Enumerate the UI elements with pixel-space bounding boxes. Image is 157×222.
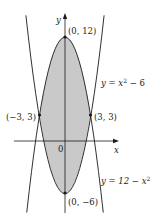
curve-lower-label: y = x2 − 6: [100, 77, 145, 89]
curve-upper-label-prefix: y = 12 − x: [100, 176, 147, 186]
y-axis-label: y: [55, 15, 61, 25]
curve-lower-label-prefix: y = x: [100, 78, 123, 88]
point-right: [89, 113, 92, 116]
point-top-label: (0, 12): [68, 26, 96, 36]
y-axis-arrow-icon: [63, 13, 67, 19]
point-bottom: [63, 191, 66, 194]
curve-upper-label: y = 12 − x2: [100, 175, 150, 187]
x-axis-label: x: [114, 145, 119, 155]
point-top: [63, 35, 66, 38]
curve-lower-label-suffix: − 6: [127, 78, 145, 88]
point-bottom-label: (0, −6): [68, 197, 98, 207]
x-axis-arrow-icon: [113, 139, 119, 143]
point-left-label: (−3, 3): [6, 112, 36, 122]
point-left: [38, 113, 41, 116]
region-diagram: y x 0 (0, 12) (−3, 3) (3, 3) (0, −6) y =…: [0, 0, 157, 222]
curve-upper-label-sup: 2: [146, 175, 150, 182]
origin-label: 0: [58, 144, 63, 154]
point-right-label: (3, 3): [94, 112, 117, 122]
